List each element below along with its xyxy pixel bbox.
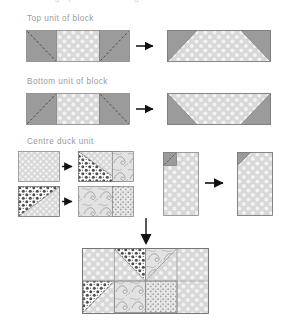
top-unit-pieces [26,30,130,62]
duck-row-one-trimmed [112,151,134,182]
dot-rectangle-centre [57,31,100,62]
cell-dot-with-dark-corner [19,187,60,217]
section-label-top-unit: Top unit of block [27,14,94,23]
tall-dot-rectangle [238,153,273,216]
arrow-right-top-unit [136,41,160,51]
section-label-bottom-unit: Bottom unit of block [27,77,108,86]
cropped-heading: Making up the block diagram [0,0,291,9]
centre-column-result [237,152,273,216]
bottom-unit-pieces [26,93,130,125]
duck-row-two-trimmed [112,186,134,217]
bottom-unit-result [167,93,271,125]
top-unit-result [167,30,271,62]
cell-trimmed-speckle [113,187,134,217]
cell-trimmed-swirl [113,152,134,182]
square-swirl-lower [115,281,146,313]
finished-block [82,248,209,314]
diagram-canvas: Making up the block diagram [0,0,291,321]
section-label-centre-duck-unit: Centre duck unit [27,137,94,146]
cell-dot-square [19,152,60,182]
arrow-right-bottom-unit [136,104,160,114]
cropped-heading-text: Making up the block diagram [28,0,157,2]
dot-rectangle-centre [57,94,100,125]
arrow-down-to-finished-block [138,218,154,246]
square-speckle-lower [146,281,178,313]
arrow-right-centre-column [205,178,231,188]
centre-column-pieces [163,152,199,216]
